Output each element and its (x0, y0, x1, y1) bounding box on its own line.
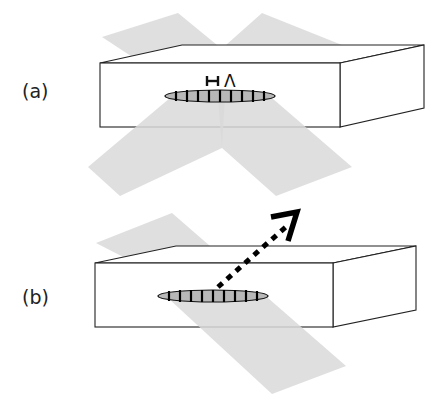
holographic-grating-diagram: Λ (a) (b) (0, 0, 445, 404)
panel-a: Λ (a) (22, 13, 424, 196)
panel-b-label: (b) (22, 286, 49, 308)
panel-b: (b) (22, 212, 416, 394)
period-symbol: Λ (224, 71, 236, 91)
panel-a-label: (a) (22, 80, 48, 102)
